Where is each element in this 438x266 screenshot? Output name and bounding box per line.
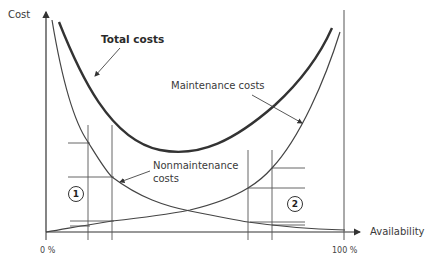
nonmaintenance-costs-label-line2: costs	[153, 173, 179, 185]
total-costs-pointer	[95, 48, 120, 76]
region-1-guides	[68, 125, 114, 240]
x-axis-tick-end: 100 %	[332, 245, 357, 257]
x-axis-tick-start: 0 %	[40, 245, 55, 257]
total-costs-label: Total costs	[101, 33, 164, 45]
maintenance-costs-label: Maintenance costs	[171, 80, 265, 92]
region-1-marker: 1	[68, 186, 84, 202]
region-2-marker: 2	[287, 196, 303, 212]
x-axis-label: Availability	[370, 226, 425, 238]
nonmaintenance-costs-pointer	[120, 171, 150, 182]
nonmaintenance-costs-label-line1: Nonmaintenance	[153, 160, 238, 172]
y-axis-label: Cost	[8, 9, 30, 21]
